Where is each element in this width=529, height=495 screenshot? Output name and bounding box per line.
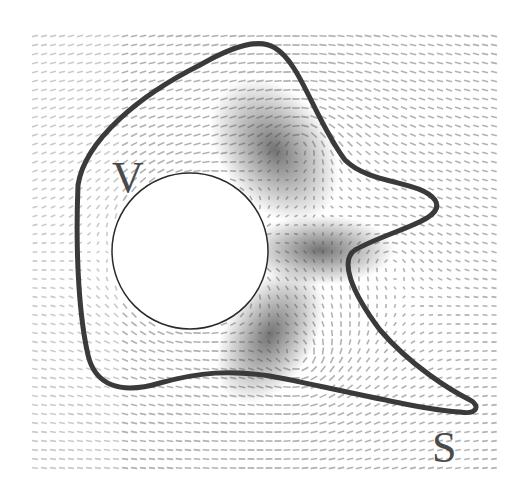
vector-arrow <box>60 314 65 316</box>
vector-arrow <box>482 405 487 406</box>
vector-arrow <box>105 187 109 191</box>
vector-arrow <box>185 62 192 63</box>
vector-arrow <box>383 107 389 110</box>
vector-arrow <box>357 188 361 191</box>
vector-arrow <box>203 125 210 127</box>
vector-arrow <box>376 286 377 290</box>
vector-arrow <box>203 53 210 54</box>
vector-arrow <box>438 297 442 298</box>
vector-arrow <box>167 413 173 414</box>
vector-arrow <box>366 197 371 199</box>
vector-arrow <box>140 35 146 36</box>
vector-arrow <box>42 179 47 181</box>
vector-arrow <box>447 233 452 235</box>
vector-arrow <box>366 206 371 207</box>
vector-arrow <box>420 250 424 253</box>
vector-arrow <box>412 277 414 280</box>
vector-arrow <box>68 432 74 433</box>
vector-arrow <box>230 441 237 442</box>
vector-arrow <box>491 423 496 424</box>
vector-arrow <box>464 170 470 172</box>
vector-arrow <box>420 350 424 352</box>
vector-arrow <box>113 53 119 55</box>
vector-arrow <box>104 89 110 91</box>
vector-arrow <box>59 414 65 415</box>
vector-arrow <box>274 396 281 397</box>
vector-arrow <box>438 242 443 245</box>
vector-arrow <box>483 306 488 307</box>
vector-arrow <box>474 242 479 244</box>
vector-arrow <box>464 89 470 91</box>
vector-arrow <box>384 188 389 190</box>
vector-arrow <box>482 35 488 36</box>
vector-arrow <box>357 178 361 181</box>
vector-arrow <box>329 115 336 119</box>
vector-arrow <box>293 441 300 442</box>
vector-arrow <box>473 152 479 154</box>
vector-arrow <box>455 179 460 181</box>
vector-arrow <box>465 297 470 298</box>
vector-arrow <box>394 313 396 317</box>
vector-arrow <box>77 404 83 405</box>
vector-arrow <box>167 62 174 64</box>
vector-arrow <box>32 387 38 388</box>
vector-arrow <box>482 459 488 460</box>
vector-arrow <box>87 269 90 271</box>
vector-arrow <box>338 431 344 433</box>
vector-arrow <box>239 423 246 424</box>
vector-arrow <box>383 440 389 442</box>
vector-arrow <box>32 134 38 136</box>
vector-arrow <box>410 44 416 45</box>
vector-arrow <box>41 62 47 63</box>
vector-arrow <box>131 395 137 397</box>
vector-arrow <box>131 431 137 432</box>
vector-arrow <box>239 405 246 406</box>
vector-arrow <box>455 197 460 199</box>
vector-arrow <box>456 342 461 343</box>
vector-arrow <box>401 233 407 235</box>
vector-arrow <box>122 125 128 128</box>
vector-arrow <box>401 197 406 199</box>
vector-arrow <box>167 35 174 36</box>
vector-arrow <box>77 341 82 343</box>
vector-arrow <box>149 62 156 64</box>
vector-arrow <box>384 376 389 379</box>
vector-arrow <box>429 341 433 343</box>
vector-arrow <box>438 333 442 334</box>
vector-arrow <box>428 170 433 172</box>
vector-arrow <box>374 124 380 127</box>
vector-arrow <box>482 423 487 424</box>
vector-arrow <box>358 330 359 335</box>
vector-arrow <box>491 179 497 181</box>
vector-arrow <box>428 143 434 145</box>
vector-arrow <box>456 269 461 271</box>
vector-arrow <box>419 161 424 163</box>
vector-arrow <box>131 331 137 335</box>
vector-arrow <box>347 62 354 64</box>
vector-arrow <box>86 116 92 118</box>
vector-arrow <box>410 98 416 100</box>
vector-arrow <box>411 377 416 379</box>
vector-arrow <box>158 377 164 379</box>
vector-arrow <box>113 350 119 353</box>
vector-arrow <box>374 431 380 433</box>
vector-arrow <box>320 458 327 459</box>
vector-arrow <box>60 233 64 235</box>
vector-arrow <box>149 459 155 460</box>
vector-arrow <box>203 450 210 451</box>
vector-arrow <box>410 80 416 82</box>
vector-arrow <box>320 376 326 381</box>
vector-arrow <box>312 357 315 364</box>
vector-arrow <box>383 89 389 91</box>
vector-arrow <box>455 53 461 54</box>
vector-arrow <box>59 395 65 396</box>
vector-arrow <box>131 35 137 36</box>
vector-arrow <box>339 376 344 381</box>
vector-arrow <box>419 449 425 450</box>
vector-arrow <box>456 377 461 378</box>
vector-arrow <box>455 224 460 226</box>
vector-arrow <box>256 54 263 55</box>
vector-arrow <box>447 297 451 298</box>
vector-arrow <box>69 270 73 271</box>
vector-arrow <box>167 44 174 45</box>
